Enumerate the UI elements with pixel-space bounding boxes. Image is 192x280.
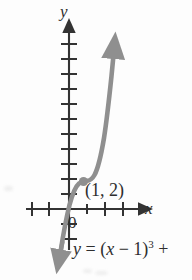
y-axis-label: y xyxy=(60,3,68,20)
scan-artifact-bottom-a xyxy=(83,269,92,273)
equation-equals: = xyxy=(86,239,96,259)
graph-canvas xyxy=(0,0,192,280)
scan-artifact-left xyxy=(4,186,13,191)
origin-label: 0 xyxy=(68,214,77,231)
point-annotation-label: (1, 2) xyxy=(85,181,124,199)
x-axis-label: x xyxy=(145,200,153,217)
x-axis xyxy=(26,202,140,216)
scan-artifact-bottom-b xyxy=(95,271,108,275)
equation-variable: x xyxy=(106,239,114,259)
equation-exponent: 3 xyxy=(148,238,154,250)
function-graph-figure: y x 0 (1, 2) y = (x − 1)3 + xyxy=(0,0,192,280)
curve-lower-arrow xyxy=(60,242,62,254)
equation-label: y = (x − 1)3 + xyxy=(73,240,168,258)
equation-constant-one: 1 xyxy=(133,239,142,259)
equation-lhs: y xyxy=(73,239,81,259)
equation-plus-sign: + xyxy=(158,239,168,259)
equation-minus-sign: − xyxy=(119,239,129,259)
